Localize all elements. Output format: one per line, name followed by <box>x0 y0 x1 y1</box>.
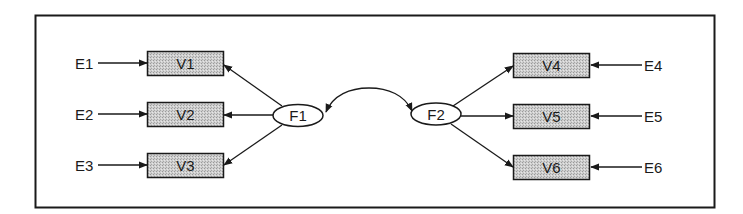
error-label-e3: E3 <box>75 157 93 174</box>
observed-box-v3: V3 <box>148 154 224 178</box>
observed-box-v2: V2 <box>148 103 224 127</box>
arrow-f1-v1 <box>224 65 282 106</box>
factor-f1: F1 <box>273 105 323 127</box>
arrow-f2-v4 <box>453 66 513 106</box>
factor-label-f2: F2 <box>427 106 445 123</box>
diagram-frame <box>36 16 715 208</box>
observed-box-v5: V5 <box>514 105 590 129</box>
error-arrows-left <box>98 63 147 165</box>
observed-label-v1: V1 <box>176 55 194 72</box>
observed-box-v4: V4 <box>514 54 590 78</box>
error-label-e6: E6 <box>644 159 662 176</box>
observed-label-v3: V3 <box>176 157 194 174</box>
error-arrows-right <box>591 65 642 167</box>
error-label-e2: E2 <box>75 106 93 123</box>
factor-label-f1: F1 <box>289 107 307 124</box>
observed-box-v6: V6 <box>514 156 590 180</box>
error-label-e1: E1 <box>75 55 93 72</box>
error-label-e5: E5 <box>644 108 662 125</box>
observed-box-v1: V1 <box>148 52 224 76</box>
arrow-f1-v3 <box>224 125 282 165</box>
sem-diagram: E1 E2 E3 V1 V2 V3 F1 F2 <box>0 0 743 214</box>
observed-label-v2: V2 <box>176 106 194 123</box>
error-label-e4: E4 <box>644 57 662 74</box>
observed-label-v6: V6 <box>542 159 560 176</box>
covariance-arc <box>326 88 412 112</box>
observed-label-v5: V5 <box>542 108 560 125</box>
arrow-f2-v6 <box>451 124 513 167</box>
observed-label-v4: V4 <box>542 57 560 74</box>
